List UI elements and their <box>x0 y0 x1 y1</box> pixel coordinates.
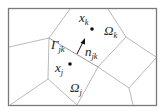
edge-left-vertical <box>48 38 49 79</box>
voronoi-diagram: xk Ωk Γjk njk xj Ωj <box>0 0 165 111</box>
edge-right-lower <box>98 67 129 88</box>
label-xj: xj <box>54 60 64 77</box>
label-gamma-jk: Γjk <box>50 37 65 54</box>
edge-right-diag <box>129 58 156 88</box>
edge-right-upper <box>98 37 126 67</box>
edge-left <box>9 38 49 47</box>
edge-right-top <box>126 37 156 57</box>
label-xk: xk <box>78 10 89 27</box>
label-n-jk: njk <box>85 44 98 61</box>
point-xj <box>68 62 72 66</box>
label-omega-j: Ωj <box>70 80 82 97</box>
edge-bottom-left <box>10 79 48 105</box>
edge-top-left <box>49 9 70 38</box>
label-omega-k: Ωk <box>104 23 117 40</box>
edge-bottom-mid <box>77 67 98 105</box>
point-xk <box>90 27 94 31</box>
normal-arrow <box>77 42 83 54</box>
edge-bottom-right <box>129 88 133 105</box>
